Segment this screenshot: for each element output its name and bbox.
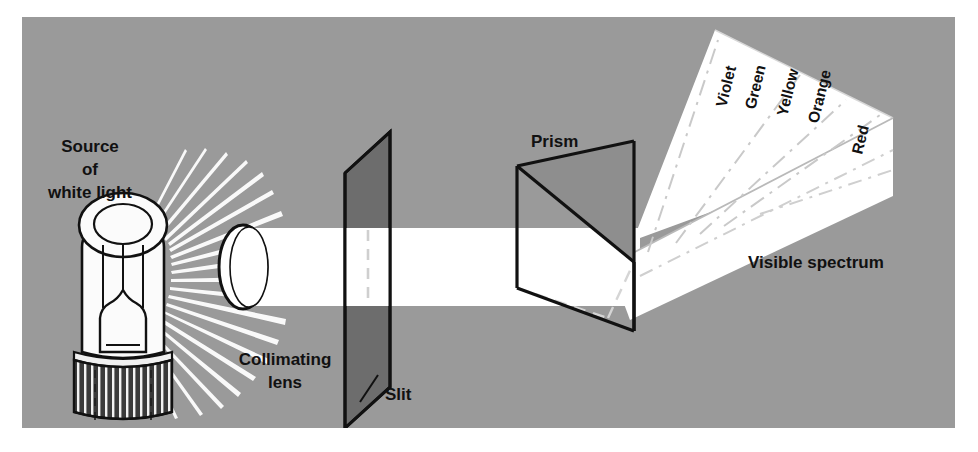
optics-diagram: Source of white light Collimating lens S… (0, 0, 978, 452)
svg-text:Source: Source (61, 137, 119, 156)
bulb-screw-base (74, 360, 172, 419)
prism-label: Prism (531, 132, 578, 151)
collimated-beam (240, 228, 640, 306)
diagram-canvas: Source of white light Collimating lens S… (0, 0, 978, 452)
light-bulb (74, 193, 172, 420)
svg-text:lens: lens (268, 373, 302, 392)
slit-plate (345, 132, 391, 428)
visible-spectrum-label: Visible spectrum (748, 253, 884, 272)
collimating-lens (219, 225, 268, 309)
svg-text:Collimating: Collimating (239, 350, 332, 369)
svg-text:white light: white light (47, 183, 132, 202)
slit-label: Slit (385, 385, 412, 404)
svg-text:of: of (82, 160, 98, 179)
